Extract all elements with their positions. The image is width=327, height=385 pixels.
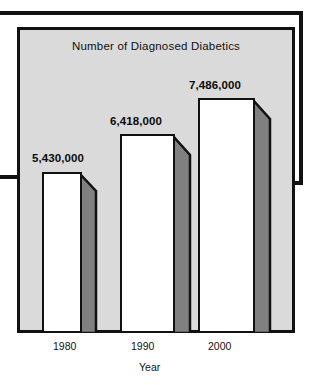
outer-frame-top-rule <box>0 11 303 15</box>
bar-2000-value-label: 7,486,000 <box>189 79 241 91</box>
bar-1990-front-face <box>120 134 175 333</box>
bar-1980-value-label: 5,430,000 <box>32 152 84 164</box>
bar-2000-front-face <box>198 98 255 333</box>
bar-1990 <box>120 134 193 333</box>
x-axis-title: Year <box>139 361 160 373</box>
x-tick-label-1980: 1980 <box>53 340 76 352</box>
bar-1980-front-face <box>42 172 82 333</box>
bar-1980 <box>42 172 106 333</box>
outer-frame-right-rule <box>299 11 303 185</box>
x-tick-label-1990: 1990 <box>131 340 154 352</box>
bar-2000 <box>198 98 273 333</box>
x-tick-label-2000: 2000 <box>208 340 231 352</box>
bar-1990-value-label: 6,418,000 <box>110 115 162 127</box>
figure: Number of Diagnosed Diabetics 5,430,000 … <box>0 0 327 385</box>
chart-title: Number of Diagnosed Diabetics <box>20 40 292 52</box>
